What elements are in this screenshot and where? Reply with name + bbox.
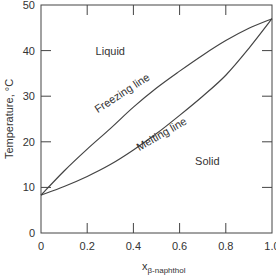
x-tick-label: 0 <box>38 240 44 252</box>
x-tick-label: 1.0 <box>264 240 276 252</box>
y-tick-label: 50 <box>23 0 35 11</box>
annotations: LiquidSolidFreezing lineMelting line <box>92 45 219 166</box>
y-tick-label: 0 <box>29 227 35 239</box>
y-tick-label: 10 <box>23 181 35 193</box>
x-axis-title-subscript: β-naphthol <box>148 266 186 275</box>
y-tick-label: 30 <box>23 90 35 102</box>
y-tick-label: 20 <box>23 136 35 148</box>
x-tick-label: 0.4 <box>126 240 141 252</box>
x-tick-label: 0.6 <box>172 240 187 252</box>
melting-line-curve <box>41 19 272 195</box>
axes <box>41 5 272 233</box>
y-axis-title: Temperature, °C <box>3 79 15 159</box>
phase-diagram: 00.20.40.60.81.0 01020304050 LiquidSolid… <box>0 0 276 276</box>
melting-line-label: Melting line <box>134 115 188 153</box>
freezing-line-curve <box>41 19 272 195</box>
curves <box>41 19 272 195</box>
x-tick-label: 0.2 <box>80 240 95 252</box>
liquid-label: Liquid <box>96 45 125 57</box>
plot-frame <box>41 5 272 233</box>
freezing-line-label: Freezing line <box>92 71 151 115</box>
x-axis-title: xβ-naphthol <box>142 260 186 275</box>
x-tick-label: 0.8 <box>218 240 233 252</box>
solid-label: Solid <box>195 155 219 167</box>
y-tick-label: 40 <box>23 45 35 57</box>
